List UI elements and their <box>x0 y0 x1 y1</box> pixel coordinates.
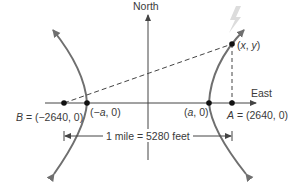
left-hyperbola-branch <box>53 30 87 174</box>
point-A <box>229 100 235 106</box>
dimension-label: 1 mile = 5280 feet <box>106 130 190 142</box>
label-neg-vertex: (−a, 0) <box>90 106 121 118</box>
right-hyperbola-branch <box>209 30 246 174</box>
label-lightning-point: (x, y) <box>237 39 260 51</box>
label-B: B = (−2640, 0) <box>16 111 83 123</box>
point-B <box>61 100 67 106</box>
north-label: North <box>133 0 159 12</box>
label-pos-vertex: (a, 0) <box>184 106 209 118</box>
label-A: A = (2640, 0) <box>226 109 288 121</box>
hyperbola-diagram: North East (x, y) B = (−2640, 0) (−a, 0)… <box>0 0 301 187</box>
dimension-line: 1 mile = 5280 feet <box>64 129 232 142</box>
point-lightning <box>229 41 235 47</box>
east-label: East <box>251 87 272 99</box>
point-neg-vertex <box>84 100 90 106</box>
lightning-bolt-icon <box>229 6 241 33</box>
point-pos-vertex <box>206 100 212 106</box>
